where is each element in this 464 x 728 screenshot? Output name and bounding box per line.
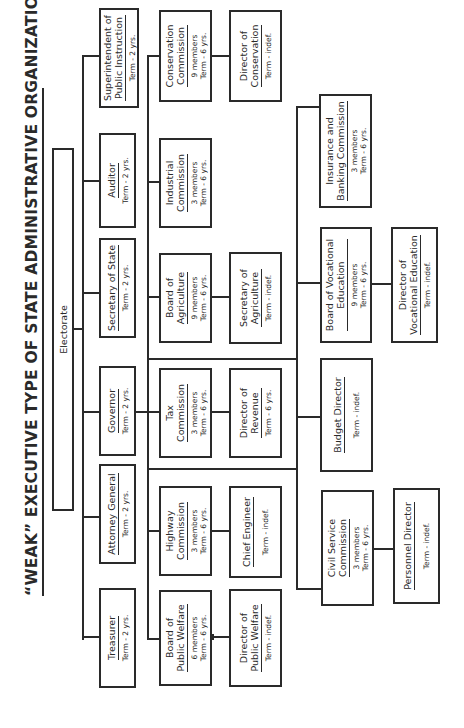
attorney-general-box: Attorney General Term - 2 yrs. xyxy=(99,464,136,564)
connector xyxy=(82,292,99,294)
tax-commission-box: Tax Commission 3 members Term - 6 yrs. xyxy=(159,368,212,458)
chief-engineer-box: Chief Engineer Term - indef. xyxy=(229,486,282,578)
board-vocational-education-box: Board of Vocational Education 9 members … xyxy=(320,227,372,343)
personnel-director-box: Personnel Director Term - indef. xyxy=(393,488,440,604)
secretary-agriculture-box: Secretary of Agriculture Term - indef. xyxy=(229,252,282,344)
connector xyxy=(147,55,149,640)
connector xyxy=(212,296,229,298)
secretary-of-state-box: Secretary of State Term - 2 yrs. xyxy=(99,238,136,338)
connector xyxy=(147,411,159,413)
connector xyxy=(147,181,159,183)
chart-title: “WEAK” EXECUTIVE TYPE OF STATE ADMINISTR… xyxy=(24,88,44,596)
connector xyxy=(147,530,159,532)
superintendent-box: Superintendent of Public Instruction Ter… xyxy=(99,8,139,108)
insurance-banking-commission-box: Insurance and Banking Commission 3 membe… xyxy=(319,94,372,208)
conservation-commission-box: Conservation Commission 9 members Term -… xyxy=(159,10,212,102)
connector xyxy=(374,548,394,550)
connector xyxy=(147,55,159,57)
connector xyxy=(296,106,298,590)
governor-box: Governor Term - 2 yrs. xyxy=(99,366,136,456)
electorate-box: Electorate xyxy=(52,148,74,511)
connector xyxy=(372,283,392,285)
board-agriculture-box: Board of Agriculture 9 members Term - 6 … xyxy=(159,253,212,343)
director-vocational-education-box: Director of Vocational Education Term - … xyxy=(391,227,438,343)
org-chart: “WEAK” EXECUTIVE TYPE OF STATE ADMINISTR… xyxy=(0,0,464,728)
director-revenue-box: Director of Revenue Term - 6 yrs. xyxy=(229,368,282,458)
connector xyxy=(82,636,99,638)
connector xyxy=(212,55,229,57)
connector xyxy=(82,55,99,57)
connector xyxy=(147,638,159,640)
auditor-box: Auditor Term - 2 yrs. xyxy=(99,133,136,228)
director-public-welfare-box: Director of Public Welfare Term - indef. xyxy=(229,589,282,687)
connector xyxy=(82,516,99,518)
connector xyxy=(82,411,99,413)
budget-director-box: Budget Director Term - indef. xyxy=(320,358,373,472)
civil-service-commission-box: Civil Service Commission 3 members Term … xyxy=(321,490,374,606)
board-public-welfare-box: Board of Public Welfare 6 members Term -… xyxy=(159,590,212,686)
treasurer-box: Treasurer Term - 2 yrs. xyxy=(99,588,136,688)
director-conservation-box: Director of Conservation Term - indef. xyxy=(229,10,282,102)
connector xyxy=(147,296,159,298)
connector xyxy=(147,468,297,470)
connector xyxy=(82,55,84,640)
connector xyxy=(212,411,229,413)
connector xyxy=(212,530,229,532)
connector xyxy=(82,180,99,182)
industrial-commission-box: Industrial Commission 3 members Term - 6… xyxy=(159,138,212,228)
connector xyxy=(147,358,297,360)
connector xyxy=(212,636,229,638)
highway-commission-box: Highway Commission 3 members Term - 6 yr… xyxy=(159,486,212,576)
electorate-label: Electorate xyxy=(58,305,69,354)
